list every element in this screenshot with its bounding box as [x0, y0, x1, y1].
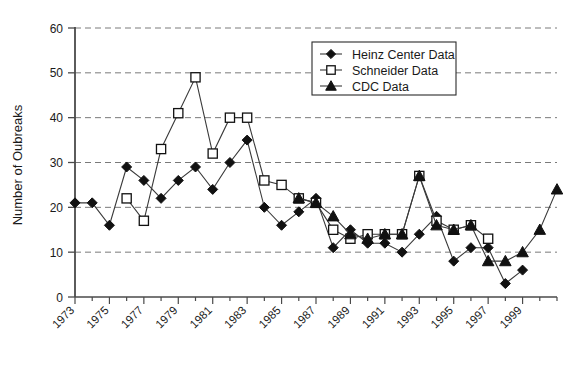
x-tick-label: 1991	[360, 304, 387, 331]
data-point	[174, 109, 183, 118]
data-point	[466, 243, 476, 253]
chart-container: 0102030405060 19731975197719791981198319…	[0, 0, 574, 370]
series-schneider-data	[122, 73, 493, 244]
y-tick-label: 30	[50, 156, 64, 170]
y-tick-label: 20	[50, 201, 64, 215]
data-point	[260, 176, 269, 185]
x-tick-label: 1987	[291, 304, 318, 331]
data-point	[70, 198, 80, 208]
x-axis-ticks	[75, 297, 557, 304]
y-tick-label: 60	[50, 22, 64, 36]
data-point	[277, 180, 286, 189]
y-axis-ticks: 0102030405060	[50, 22, 75, 305]
data-point	[327, 211, 339, 221]
data-point	[483, 243, 493, 253]
x-tick-label: 1973	[50, 304, 77, 331]
data-point	[500, 279, 510, 289]
series-line	[127, 77, 489, 238]
x-tick-label: 1975	[84, 304, 111, 331]
x-tick-label: 1989	[325, 304, 352, 331]
x-tick-label: 1997	[463, 304, 490, 331]
data-point	[191, 162, 201, 172]
data-point	[551, 184, 563, 194]
x-axis-tick-labels: 1973197519771979198119831985198719891991…	[50, 304, 524, 331]
y-tick-label: 50	[50, 66, 64, 80]
x-tick-label: 1993	[394, 304, 421, 331]
y-axis-title: Number of Oubreaks	[10, 104, 25, 225]
data-point	[208, 149, 217, 158]
data-point	[484, 234, 493, 243]
data-point	[242, 135, 252, 145]
x-tick-label: 1979	[153, 304, 180, 331]
data-point	[243, 113, 252, 122]
data-point	[122, 194, 131, 203]
data-point	[225, 113, 234, 122]
x-tick-label: 1995	[429, 304, 456, 331]
data-point	[122, 162, 132, 172]
y-tick-label: 0	[56, 291, 63, 305]
data-point	[294, 207, 304, 217]
x-tick-label: 1977	[119, 304, 146, 331]
data-point	[139, 216, 148, 225]
data-point	[380, 238, 390, 248]
data-point	[191, 73, 200, 82]
chart-legend: Heinz Center DataSchneider DataCDC Data	[312, 42, 456, 95]
data-point	[517, 246, 529, 256]
x-tick-label: 1981	[188, 304, 215, 331]
data-point	[104, 220, 114, 230]
data-point	[156, 144, 165, 153]
data-point	[329, 225, 338, 234]
data-point	[208, 184, 218, 194]
data-point	[518, 265, 528, 275]
x-tick-label: 1999	[497, 304, 524, 331]
data-point	[87, 198, 97, 208]
x-tick-label: 1985	[256, 304, 283, 331]
line-chart: 0102030405060 19731975197719791981198319…	[0, 0, 574, 370]
data-point	[500, 255, 512, 265]
legend-label: CDC Data	[352, 80, 409, 94]
x-tick-label: 1983	[222, 304, 249, 331]
series-heinz-center-data	[70, 135, 528, 288]
data-point	[534, 224, 546, 234]
legend-label: Schneider Data	[352, 64, 438, 78]
y-tick-label: 10	[50, 246, 64, 260]
legend-label: Heinz Center Data	[352, 48, 455, 62]
y-tick-label: 40	[50, 111, 64, 125]
data-series-layer	[70, 73, 563, 289]
legend-marker-open-square	[327, 66, 335, 74]
data-point	[225, 158, 235, 168]
data-point	[449, 256, 459, 266]
